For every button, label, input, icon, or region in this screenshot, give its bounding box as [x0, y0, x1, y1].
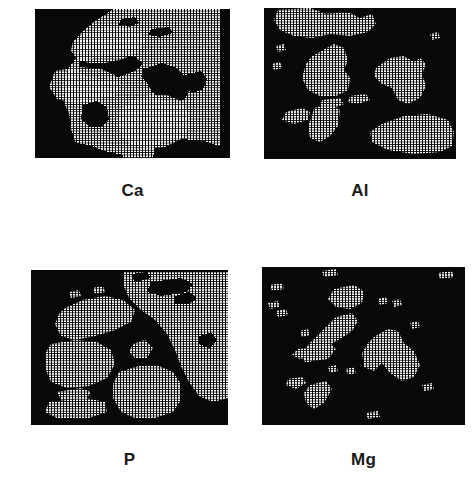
xray-map-p: [31, 270, 228, 425]
panel-mg: [262, 267, 465, 425]
figure-xray-maps: Ca: [0, 0, 475, 480]
caption-p: P: [31, 450, 228, 469]
xray-map-al: [264, 8, 456, 159]
xray-map-mg: [262, 267, 465, 425]
caption-ca: Ca: [35, 181, 230, 200]
caption-al: Al: [264, 181, 456, 200]
panel-p: [31, 270, 228, 425]
caption-mg: Mg: [262, 450, 465, 469]
panel-ca: [35, 9, 230, 158]
xray-map-ca: [35, 9, 230, 158]
panel-al: [264, 8, 456, 159]
